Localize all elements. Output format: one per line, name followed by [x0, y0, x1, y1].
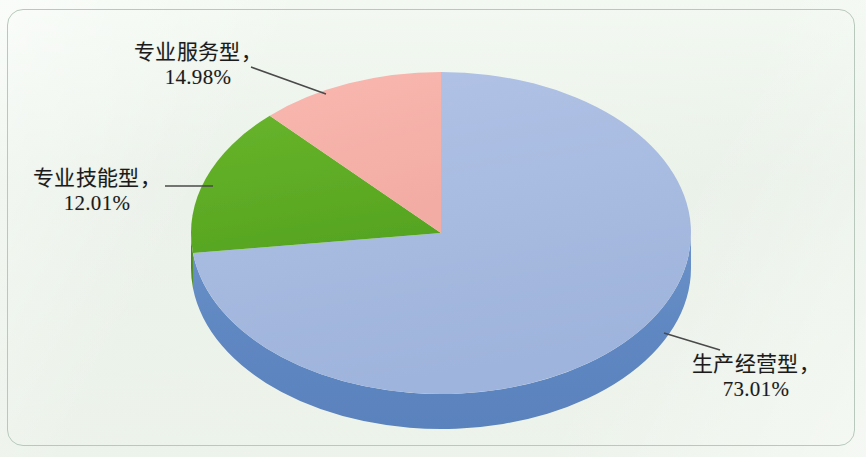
- slice-label-professional-skill: 专业技能型， 12.01%: [22, 166, 172, 216]
- slice-label-production-management: 生产经营型， 73.01%: [668, 352, 844, 402]
- slice-label-name: 专业服务型，: [108, 40, 288, 65]
- slice-label-professional-service: 专业服务型， 14.98%: [108, 40, 288, 90]
- pie-chart-figure: 专业服务型， 14.98% 专业技能型， 12.01% 生产经营型， 73.01…: [0, 0, 866, 457]
- leader-line-blue: [664, 333, 720, 350]
- slice-label-value: 12.01%: [22, 191, 172, 216]
- slice-label-value: 14.98%: [108, 65, 288, 90]
- pie-top-faces: [191, 72, 691, 394]
- slice-label-value: 73.01%: [668, 377, 844, 402]
- slice-label-name: 专业技能型，: [22, 166, 172, 191]
- slice-label-name: 生产经营型，: [668, 352, 844, 377]
